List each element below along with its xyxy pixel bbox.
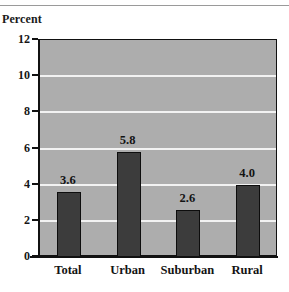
x-axis-line [30,256,278,258]
y-axis-tick-label: 8 [0,104,30,119]
y-axis-tick-label: 2 [0,212,30,227]
y-axis-tick [32,219,38,221]
top-divider-rule [0,5,289,6]
y-axis-tick-label: 12 [0,32,30,47]
bar[interactable] [117,152,141,257]
gridline [39,111,276,113]
bar-value-label: 5.8 [120,133,136,148]
y-axis-title: Percent [2,12,42,27]
y-axis-tick [32,183,38,185]
gridline [39,148,276,150]
y-axis-tick [32,147,38,149]
x-axis-category-label: Total [54,263,81,278]
bar[interactable] [176,210,200,257]
bar[interactable] [236,185,260,257]
x-axis-category-label: Suburban [161,263,215,278]
y-axis-line [38,39,40,257]
y-axis-tick [32,110,38,112]
y-axis-tick [32,255,38,257]
bar-value-label: 3.6 [60,173,76,188]
x-axis-category-label: Rural [232,263,263,278]
y-axis-tick-label: 4 [0,176,30,191]
y-axis-tick-label: 6 [0,140,30,155]
x-axis-category-label: Urban [110,263,145,278]
bar-chart-figure: Percent 024681012 3.6Total5.8Urban2.6Sub… [0,0,289,292]
y-axis-tick-label: 0 [0,249,30,264]
y-axis-tick [32,38,38,40]
plot-area [38,39,277,256]
bar-value-label: 2.6 [180,191,196,206]
bar-value-label: 4.0 [239,166,255,181]
y-axis-tick [32,74,38,76]
bar[interactable] [57,192,81,257]
y-axis-tick-label: 10 [0,68,30,83]
gridline [39,75,276,77]
